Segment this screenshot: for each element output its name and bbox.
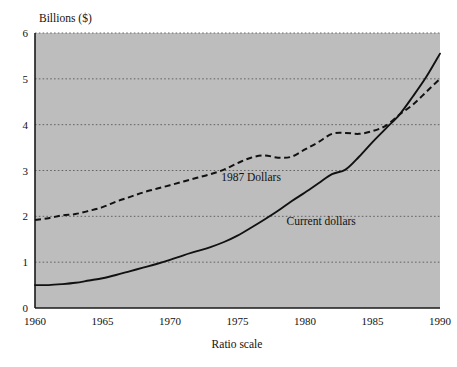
series-annotation-current-dollars: Current dollars	[287, 215, 357, 227]
y-tick-label: 2	[23, 210, 29, 222]
y-tick-label: 5	[23, 73, 29, 85]
y-axis-tick-labels: 0123456	[23, 27, 29, 314]
y-axis-title: Billions ($)	[39, 12, 92, 25]
y-tick-label: 4	[23, 119, 29, 131]
y-tick-label: 3	[23, 165, 29, 177]
x-tick-label: 1990	[429, 315, 452, 327]
x-axis-title: Ratio scale	[212, 338, 263, 350]
x-tick-label: 1985	[362, 315, 385, 327]
series-annotation-1987-dollars: 1987 Dollars	[221, 171, 281, 183]
x-tick-label: 1980	[294, 315, 317, 327]
x-tick-label: 1965	[92, 315, 115, 327]
y-tick-label: 1	[23, 256, 29, 268]
line-chart: 0123456 1960196519701975198019851990 198…	[0, 0, 457, 367]
chart-figure: 0123456 1960196519701975198019851990 198…	[0, 0, 457, 367]
x-axis-tick-labels: 1960196519701975198019851990	[24, 315, 452, 327]
x-tick-label: 1960	[24, 315, 47, 327]
y-tick-label: 0	[23, 302, 29, 314]
y-tick-label: 6	[23, 27, 29, 39]
x-tick-label: 1975	[227, 315, 250, 327]
x-tick-label: 1970	[159, 315, 182, 327]
